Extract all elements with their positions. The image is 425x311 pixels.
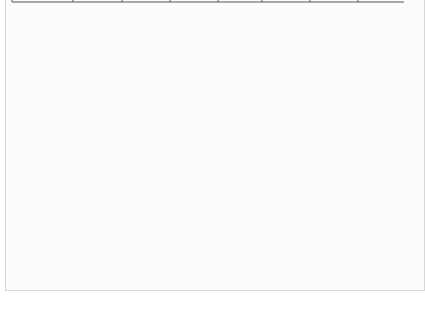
parabola-chart: [0, 0, 404, 311]
